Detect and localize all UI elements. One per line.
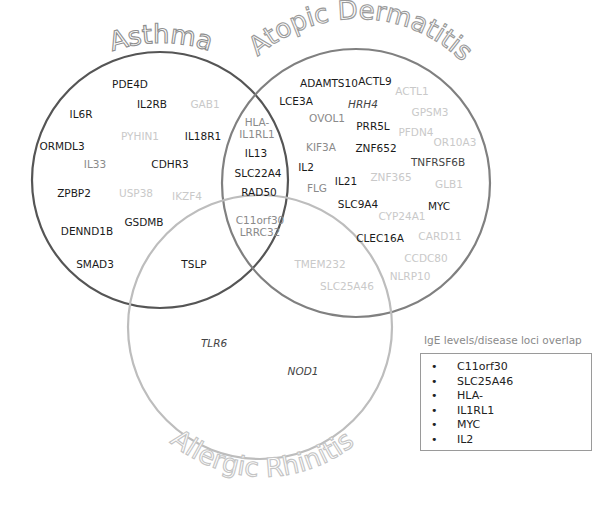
gene-label: DENND1B bbox=[61, 225, 113, 237]
gene-label: TNFRSF6B bbox=[411, 156, 465, 168]
gene-label: CDHR3 bbox=[151, 158, 188, 170]
gene-label: CARD11 bbox=[418, 230, 461, 242]
gene-label: SLC22A4 bbox=[234, 167, 281, 179]
gene-label: GSDMB bbox=[124, 216, 163, 228]
legend-item: •MYC bbox=[431, 418, 591, 433]
gene-label: HRH4 bbox=[348, 98, 378, 110]
legend-title: IgE levels/disease loci overlap bbox=[424, 334, 582, 346]
gene-label: GPSM3 bbox=[412, 106, 449, 118]
gene-label: IL21 bbox=[335, 175, 357, 187]
gene-label: ACTL9 bbox=[358, 75, 391, 87]
gene-label: OVOL1 bbox=[309, 112, 345, 124]
legend-item: •HLA- bbox=[431, 389, 591, 404]
gene-label: NOD1 bbox=[288, 365, 319, 377]
gene-label: RAD50 bbox=[241, 186, 277, 198]
gene-label: IL6R bbox=[70, 108, 93, 120]
gene-label: IL2RB bbox=[137, 98, 167, 110]
asthma-circle bbox=[32, 52, 288, 308]
gene-label: IL18R1 bbox=[185, 130, 221, 142]
gene-label: LCE3A bbox=[279, 95, 313, 107]
gene-label: TMEM232 bbox=[294, 258, 345, 270]
allergic-rhinitis-label: Allergic Rhinitis bbox=[166, 423, 359, 483]
gene-label: GLB1 bbox=[435, 178, 463, 190]
gene-label: CYP24A1 bbox=[378, 210, 425, 222]
gene-label: SMAD3 bbox=[76, 258, 114, 270]
gene-label: TSLP bbox=[181, 258, 206, 270]
gene-label: GAB1 bbox=[190, 98, 219, 110]
gene-label: PFDN4 bbox=[399, 126, 434, 138]
gene-label: CLEC16A bbox=[356, 232, 404, 244]
legend-item: •C11orf30 bbox=[431, 360, 591, 375]
gene-label: IL33 bbox=[84, 158, 106, 170]
gene-label: SLC9A4 bbox=[338, 198, 378, 210]
gene-label: PRR5L bbox=[356, 120, 389, 132]
bullet-icon: • bbox=[431, 418, 457, 433]
gene-label: C11orf30LRRC32 bbox=[236, 214, 285, 238]
legend-item: •IL1RL1 bbox=[431, 404, 591, 419]
gene-label: OR10A3 bbox=[434, 136, 477, 148]
gene-label: IL2 bbox=[298, 161, 314, 173]
gene-label: ZNF652 bbox=[355, 142, 396, 154]
gene-label: PYHIN1 bbox=[121, 130, 159, 142]
gene-label: NLRP10 bbox=[390, 270, 431, 282]
bullet-icon: • bbox=[431, 404, 457, 419]
gene-label: MYC bbox=[428, 200, 450, 212]
legend-item: •IL2 bbox=[431, 433, 591, 448]
gene-label: KIF3A bbox=[306, 141, 336, 153]
atopic-dermatitis-label: Atopic Dermatitis bbox=[243, 0, 479, 67]
bullet-icon: • bbox=[431, 433, 457, 448]
gene-label: USP38 bbox=[119, 187, 153, 199]
gene-label: PDE4D bbox=[112, 78, 148, 90]
gene-label: HLA-IL1RL1 bbox=[239, 116, 274, 140]
gene-label: ADAMTS10 bbox=[300, 77, 358, 89]
gene-label: TLR6 bbox=[201, 337, 227, 349]
legend-item: •SLC25A46 bbox=[431, 375, 591, 390]
gene-label: ZPBP2 bbox=[57, 187, 91, 199]
legend-box: •C11orf30 •SLC25A46 •HLA- •IL1RL1 •MYC •… bbox=[420, 353, 592, 451]
gene-label: IKZF4 bbox=[172, 190, 202, 202]
gene-label: ZNF365 bbox=[370, 171, 411, 183]
gene-label: SLC25A46 bbox=[320, 280, 374, 292]
gene-label: IL13 bbox=[245, 147, 267, 159]
bullet-icon: • bbox=[431, 375, 457, 390]
gene-label: ACTL1 bbox=[395, 85, 428, 97]
gene-label: FLG bbox=[307, 182, 327, 194]
gene-label: CCDC80 bbox=[404, 252, 447, 264]
bullet-icon: • bbox=[431, 389, 457, 404]
gene-label: ORMDL3 bbox=[39, 140, 84, 152]
bullet-icon: • bbox=[431, 360, 457, 375]
